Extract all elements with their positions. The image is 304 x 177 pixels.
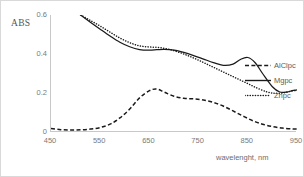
y-tick-label: 0.4 <box>37 49 47 58</box>
legend-item-alclpc[interactable]: AlClpc <box>245 61 296 70</box>
absorption-spectrum-chart: ABS 00.20.40.6 450550650750850950 wavele… <box>0 0 304 177</box>
legend-item-mgpc[interactable]: Mgpc <box>245 76 296 85</box>
chart-legend: AlClpcMgpcZnpc <box>245 61 296 100</box>
legend-label: AlClpc <box>274 61 296 70</box>
x-tick-label: 750 <box>183 136 213 145</box>
legend-swatch-dotted-icon <box>245 92 271 99</box>
y-axis-tick-labels: 00.20.40.6 <box>1 1 47 177</box>
x-tick-label: 450 <box>35 136 65 145</box>
legend-swatch-solid-icon <box>245 77 271 84</box>
legend-swatch-dashed-icon <box>245 62 271 69</box>
x-tick-label: 650 <box>133 136 163 145</box>
legend-label: Mgpc <box>274 76 292 85</box>
y-tick-label: 0.2 <box>37 88 47 97</box>
x-tick-label: 850 <box>232 136 262 145</box>
x-axis-title: wavelenght, nm <box>216 153 269 162</box>
legend-item-znpc[interactable]: Znpc <box>245 91 296 100</box>
y-tick-label: 0 <box>43 127 47 136</box>
x-tick-label: 550 <box>84 136 114 145</box>
legend-label: Znpc <box>274 91 291 100</box>
x-tick-label: 950 <box>281 136 304 145</box>
y-tick-label: 0.6 <box>37 10 47 19</box>
